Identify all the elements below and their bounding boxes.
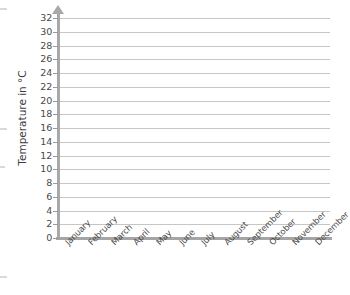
y-axis-tick-label: 24 bbox=[28, 68, 52, 77]
y-axis-tick bbox=[53, 101, 58, 102]
y-axis-tick bbox=[53, 156, 58, 157]
gridline bbox=[58, 183, 330, 184]
gridline bbox=[58, 73, 330, 74]
gridline bbox=[58, 101, 330, 102]
y-axis-tick-label: 14 bbox=[28, 137, 52, 146]
gridline bbox=[58, 87, 330, 88]
y-axis-tick bbox=[53, 238, 58, 239]
gridline bbox=[58, 156, 330, 157]
y-axis-tick-label: 0 bbox=[28, 233, 52, 242]
y-axis-tick-label: 4 bbox=[28, 206, 52, 215]
gridline bbox=[58, 32, 330, 33]
gridline bbox=[58, 46, 330, 47]
gridline bbox=[58, 211, 330, 212]
y-axis-tick bbox=[53, 46, 58, 47]
y-axis-tick-label: 26 bbox=[28, 54, 52, 63]
y-axis-tick-label: 30 bbox=[28, 27, 52, 36]
y-axis-tick bbox=[53, 18, 58, 19]
y-axis-tick bbox=[53, 142, 58, 143]
plot-area bbox=[58, 18, 330, 238]
gridline bbox=[58, 197, 330, 198]
x-axis-tick-labels: JanuaryFebruaryMarchAprilMayJuneJulyAugu… bbox=[58, 240, 338, 295]
y-axis-tick bbox=[53, 87, 58, 88]
y-axis-tick bbox=[53, 114, 58, 115]
scan-edge-mark bbox=[0, 166, 5, 168]
gridline bbox=[58, 142, 330, 143]
y-axis-tick bbox=[53, 224, 58, 225]
scan-edge-mark bbox=[0, 276, 7, 278]
y-axis-tick bbox=[53, 59, 58, 60]
y-axis-tick-label: 10 bbox=[28, 164, 52, 173]
y-axis-tick-label: 12 bbox=[28, 151, 52, 160]
y-axis-tick-label: 28 bbox=[28, 41, 52, 50]
y-axis-tick-label: 18 bbox=[28, 109, 52, 118]
y-axis-tick-label: 6 bbox=[28, 192, 52, 201]
gridline bbox=[58, 169, 330, 170]
y-axis-tick-label: 20 bbox=[28, 96, 52, 105]
gridline bbox=[58, 18, 330, 19]
y-axis-tick-label: 8 bbox=[28, 178, 52, 187]
gridline bbox=[58, 59, 330, 60]
scan-edge-mark bbox=[0, 128, 7, 130]
y-axis-tick bbox=[53, 128, 58, 129]
y-axis-tick-label: 2 bbox=[28, 219, 52, 228]
y-axis-tick-label: 22 bbox=[28, 82, 52, 91]
y-axis-tick bbox=[53, 211, 58, 212]
y-axis-tick bbox=[53, 73, 58, 74]
y-axis-arrow-icon bbox=[52, 5, 64, 14]
y-axis-tick bbox=[53, 183, 58, 184]
temperature-chart: Temperature in °C 0246810121416182022242… bbox=[0, 0, 350, 295]
y-axis-tick bbox=[53, 197, 58, 198]
y-axis-tick-label: 32 bbox=[28, 13, 52, 22]
gridline bbox=[58, 114, 330, 115]
y-axis-tick-labels: 02468101214161820222426283032 bbox=[26, 0, 52, 295]
y-axis-tick bbox=[53, 32, 58, 33]
y-axis-tick-label: 16 bbox=[28, 123, 52, 132]
scan-edge-mark bbox=[0, 8, 7, 10]
gridline bbox=[58, 128, 330, 129]
y-axis-tick bbox=[53, 169, 58, 170]
